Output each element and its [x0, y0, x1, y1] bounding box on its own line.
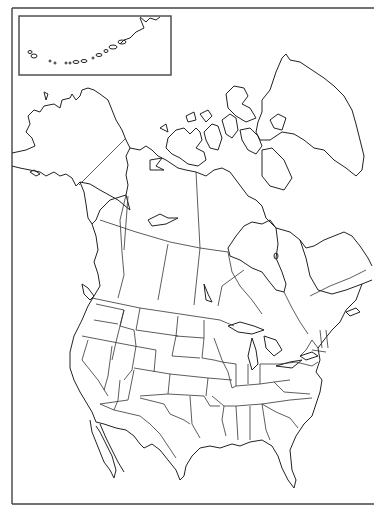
alaska-panhandle: [80, 182, 126, 224]
north-america-outline-map: [0, 0, 374, 518]
aleutian-islands: [28, 17, 160, 64]
map-frame: [12, 8, 374, 504]
mexico-west-coast: [100, 424, 124, 472]
vancouver-island: [82, 284, 94, 300]
canada-north-coast: [130, 146, 372, 266]
us-canada-border: [92, 298, 234, 326]
greenland-outline: [256, 54, 364, 176]
alaska-outline: [12, 88, 130, 210]
island-outline: [44, 92, 48, 100]
us-state-borders: [82, 304, 328, 440]
island-outline: [30, 170, 40, 176]
hudson-bay-outline: [228, 220, 286, 292]
maritimes-coast: [318, 284, 362, 348]
aleutian-inset-frame: [19, 16, 171, 75]
lake-outline: [204, 284, 212, 302]
atlantic-coast: [262, 348, 322, 488]
baja-california: [90, 420, 116, 478]
pacific-coast: [70, 224, 100, 422]
arctic-archipelago: [148, 86, 292, 226]
island-outline: [346, 308, 360, 316]
alaska-canada-border: [79, 139, 125, 185]
